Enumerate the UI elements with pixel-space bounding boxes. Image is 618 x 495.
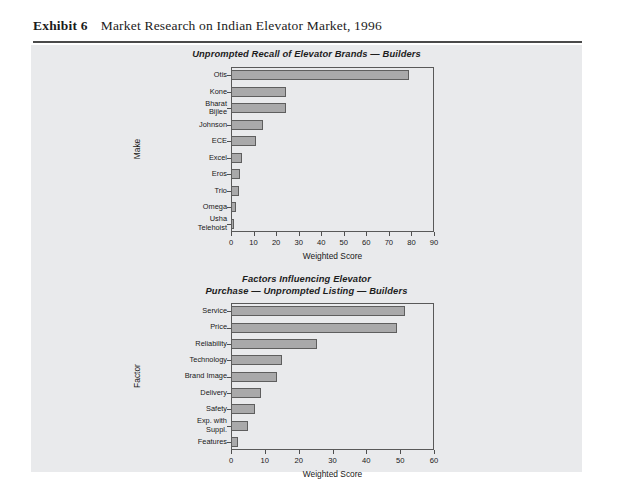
bar xyxy=(231,421,248,431)
bar xyxy=(231,87,286,97)
y-category-label: Kone xyxy=(161,88,227,96)
x-tick-mark xyxy=(333,450,334,454)
x-tick-mark xyxy=(389,232,390,236)
x-tick-label: 90 xyxy=(421,238,447,247)
y-category-label: Exp. with Suppl. xyxy=(161,417,227,434)
chart-builders-recall: Unprompted Recall of Elevator Brands — B… xyxy=(31,48,582,263)
bar-row xyxy=(231,372,434,382)
y-tick-mark xyxy=(227,393,231,394)
bar-row xyxy=(231,120,434,130)
bar-row xyxy=(231,339,434,349)
bar xyxy=(231,355,282,365)
x-tick-mark xyxy=(366,450,367,454)
bar-row xyxy=(231,186,434,196)
y-tick-mark xyxy=(227,360,231,361)
y-axis-title: Factor xyxy=(132,346,142,406)
x-tick-mark xyxy=(400,450,401,454)
chart-title-line: Factors Influencing Elevator xyxy=(31,273,582,285)
bar-row xyxy=(231,136,434,146)
y-tick-mark xyxy=(227,108,231,109)
bar-row xyxy=(231,437,434,447)
y-tick-mark xyxy=(227,311,231,312)
y-tick-mark xyxy=(227,191,231,192)
chart-title-line: Unprompted Recall of Elevator Brands — B… xyxy=(31,48,582,60)
x-tick-mark xyxy=(276,232,277,236)
bar xyxy=(231,388,261,398)
y-tick-mark xyxy=(227,344,231,345)
bar-row xyxy=(231,202,434,212)
bar-row xyxy=(231,219,434,229)
y-category-label: Omega xyxy=(161,203,227,211)
bar-row xyxy=(231,323,434,333)
y-category-label: Bharat Bijlee xyxy=(161,100,227,117)
bar-row xyxy=(231,169,434,179)
bar xyxy=(231,70,409,80)
bar xyxy=(231,103,286,113)
y-category-label: Usha Telehoist xyxy=(161,215,227,232)
y-tick-mark xyxy=(227,207,231,208)
bar xyxy=(231,219,234,229)
y-category-label: Reliability xyxy=(161,340,227,348)
y-category-label: Delivery xyxy=(161,389,227,397)
bar-row xyxy=(231,70,434,80)
x-tick-label: 40 xyxy=(353,456,379,465)
y-category-label: Otis xyxy=(161,71,227,79)
x-tick-mark xyxy=(231,232,232,236)
chart-title-recall: Unprompted Recall of Elevator Brands — B… xyxy=(31,48,582,60)
bar-row xyxy=(231,404,434,414)
x-tick-mark xyxy=(434,232,435,236)
x-tick-mark xyxy=(254,232,255,236)
y-tick-mark xyxy=(227,377,231,378)
bar-row xyxy=(231,153,434,163)
bar-row xyxy=(231,388,434,398)
figure-panel: Unprompted Recall of Elevator Brands — B… xyxy=(31,45,582,472)
chart-title-line: Purchase — Unprompted Listing — Builders xyxy=(31,285,582,297)
y-tick-mark xyxy=(227,92,231,93)
y-category-label: ECE xyxy=(161,137,227,145)
x-tick-label: 10 xyxy=(252,456,278,465)
y-category-label: Features xyxy=(161,438,227,446)
y-category-label: Service xyxy=(161,307,227,315)
x-tick-mark xyxy=(265,450,266,454)
bar xyxy=(231,372,277,382)
bar xyxy=(231,120,263,130)
y-category-label: Excel xyxy=(161,154,227,162)
bar xyxy=(231,437,238,447)
bar-row xyxy=(231,306,434,316)
bar xyxy=(231,306,405,316)
x-tick-label: 30 xyxy=(320,456,346,465)
exhibit-title: Market Research on Indian Elevator Marke… xyxy=(101,18,382,34)
y-tick-mark xyxy=(227,426,231,427)
bar-row xyxy=(231,103,434,113)
x-tick-mark xyxy=(299,232,300,236)
bar-row xyxy=(231,421,434,431)
bar xyxy=(231,153,242,163)
x-tick-mark xyxy=(321,232,322,236)
y-tick-mark xyxy=(227,409,231,410)
x-tick-mark xyxy=(299,450,300,454)
x-tick-label: 20 xyxy=(286,456,312,465)
chart-title-factors: Factors Influencing ElevatorPurchase — U… xyxy=(31,273,582,296)
x-axis-title: Weighted Score xyxy=(231,251,434,261)
x-tick-mark xyxy=(434,450,435,454)
y-category-label: Eros xyxy=(161,170,227,178)
exhibit-label: Exhibit 6 xyxy=(33,18,88,34)
bar xyxy=(231,339,317,349)
bar-row xyxy=(231,355,434,365)
x-tick-label: 50 xyxy=(387,456,413,465)
y-category-label: Brand Image xyxy=(161,372,227,380)
bar xyxy=(231,169,240,179)
y-category-label: Safety xyxy=(161,405,227,413)
bar xyxy=(231,404,255,414)
header-divider xyxy=(33,41,582,43)
chart-builders-factors: Factors Influencing ElevatorPurchase — U… xyxy=(31,273,582,472)
exhibit-header: Exhibit 6 Market Research on Indian Elev… xyxy=(33,18,582,42)
x-tick-mark xyxy=(366,232,367,236)
y-category-label: Price xyxy=(161,323,227,331)
bar-row xyxy=(231,87,434,97)
x-tick-mark xyxy=(344,232,345,236)
y-tick-mark xyxy=(227,158,231,159)
y-tick-mark xyxy=(227,224,231,225)
bar xyxy=(231,186,239,196)
x-tick-mark xyxy=(411,232,412,236)
